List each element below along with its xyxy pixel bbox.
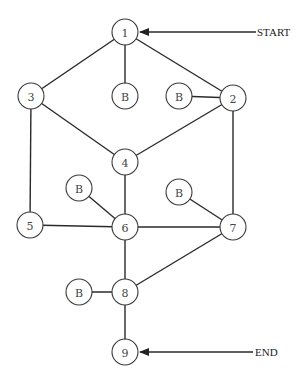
edges-group: [30, 32, 233, 352]
node-label: B: [121, 91, 129, 104]
node-label: 8: [122, 287, 129, 300]
node-label: B: [175, 187, 183, 200]
edge-n3-n5: [30, 96, 31, 225]
branch-node: B: [66, 175, 92, 201]
end-label: END: [255, 346, 278, 358]
flow-graph-diagram: START END 123456789BBBBB: [0, 0, 301, 373]
node-2: 2: [220, 85, 246, 111]
node-5: 5: [17, 212, 43, 238]
node-label: 7: [230, 222, 237, 235]
node-label: B: [175, 91, 183, 104]
edge-n7-n8: [125, 227, 233, 292]
node-label: 1: [122, 27, 129, 40]
edge-n1-n3: [31, 32, 125, 96]
branch-node: B: [66, 279, 92, 305]
node-label: 4: [122, 157, 129, 170]
node-label: 6: [122, 222, 129, 235]
branch-node: B: [166, 83, 192, 109]
diagram-svg: START END 123456789BBBBB: [0, 0, 301, 373]
node-1: 1: [112, 19, 138, 45]
node-7: 7: [220, 214, 246, 240]
node-label: 5: [27, 220, 34, 233]
node-8: 8: [112, 279, 138, 305]
start-label: START: [257, 26, 291, 38]
node-9: 9: [112, 339, 138, 365]
node-label: 9: [122, 347, 129, 360]
edge-n5-n6: [30, 225, 125, 227]
nodes-group: 123456789BBBBB: [17, 19, 246, 365]
node-4: 4: [112, 149, 138, 175]
node-label: 2: [230, 93, 237, 106]
node-6: 6: [112, 214, 138, 240]
node-label: B: [75, 287, 83, 300]
node-label: B: [75, 183, 83, 196]
edge-n3-n4: [31, 96, 125, 162]
branch-node: B: [166, 179, 192, 205]
node-3: 3: [18, 83, 44, 109]
branch-node: B: [112, 83, 138, 109]
node-label: 3: [28, 91, 35, 104]
arrows-group: START END: [140, 26, 291, 358]
